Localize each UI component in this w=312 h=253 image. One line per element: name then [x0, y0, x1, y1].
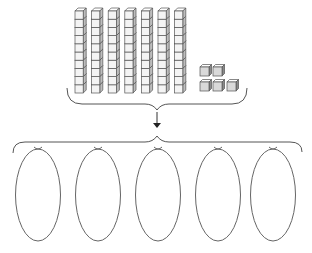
group-ellipse [16, 147, 61, 241]
unit-cube [200, 65, 212, 77]
bottom-brace [13, 136, 302, 153]
group-ellipses [16, 147, 296, 241]
unit-cube [200, 80, 212, 92]
tens-rod [175, 8, 186, 93]
down-arrow-icon [153, 112, 161, 128]
diagram-canvas [0, 0, 312, 253]
tens-rod [92, 8, 103, 93]
division-diagram: Base-ten blocks: 7 tens rods and 5 unit … [0, 0, 312, 253]
rod-cube [158, 8, 169, 19]
group-ellipse [136, 147, 181, 241]
unit-cube [213, 65, 225, 77]
tens-rod [158, 8, 169, 93]
rod-cube [141, 8, 152, 19]
tens-rod [108, 8, 119, 93]
rod-cube [75, 8, 86, 19]
rod-cube [92, 8, 103, 19]
group-ellipse [196, 147, 241, 241]
group-ellipse [76, 147, 121, 241]
rod-cube [108, 8, 119, 19]
tens-rod [75, 8, 86, 93]
unit-cube [227, 80, 239, 92]
rod-cube [175, 8, 186, 19]
group-ellipse [251, 147, 296, 241]
unit-cubes-group [200, 65, 239, 92]
tens-rod [125, 8, 136, 93]
unit-cube [213, 80, 225, 92]
tens-rods-group [75, 8, 186, 93]
tens-rod [141, 8, 152, 93]
rod-cube [125, 8, 136, 19]
